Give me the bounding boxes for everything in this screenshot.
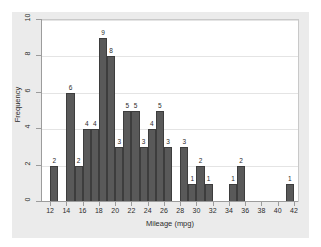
gridline — [42, 56, 298, 57]
bar-value-label: 3 — [112, 138, 126, 145]
x-axis-tick — [115, 202, 116, 206]
bar-value-label: 5 — [128, 102, 142, 109]
x-axis-tick — [148, 202, 149, 206]
x-axis-tick-label: 34 — [221, 207, 237, 214]
x-axis-label: Mileage (mpg) — [42, 219, 298, 228]
bar-value-label: 4 — [88, 120, 102, 127]
histogram-bar — [115, 147, 123, 202]
bar-value-label: 8 — [104, 47, 118, 54]
bar-value-label: 3 — [177, 138, 191, 145]
x-axis-tick-label: 40 — [270, 207, 286, 214]
y-axis-line — [41, 19, 42, 201]
gridline — [42, 20, 298, 21]
x-axis-tick — [50, 202, 51, 206]
x-axis-tick-label: 42 — [286, 207, 302, 214]
histogram-bar — [196, 166, 204, 202]
histogram-bar — [131, 111, 139, 202]
histogram-bar — [107, 56, 115, 202]
x-axis-tick-label: 38 — [253, 207, 269, 214]
histogram-bar — [123, 111, 131, 202]
x-axis-tick — [66, 202, 67, 206]
gridline — [42, 93, 298, 94]
y-axis-tick — [36, 165, 41, 166]
y-axis-tick-label: 0 — [24, 193, 31, 207]
x-axis-tick — [294, 202, 295, 206]
x-axis-tick — [229, 202, 230, 206]
x-axis-tick-label: 12 — [42, 207, 58, 214]
plot-area: 262449835534533121121 — [42, 19, 299, 202]
histogram-bar — [66, 93, 74, 202]
bar-value-label: 2 — [234, 157, 248, 164]
y-axis-tick-label: 6 — [24, 83, 31, 97]
bar-value-label: 1 — [185, 175, 199, 182]
y-axis-label: Frequency — [13, 75, 22, 135]
y-axis-tick — [36, 201, 41, 202]
histogram-bar — [140, 147, 148, 202]
bar-value-label: 5 — [153, 102, 167, 109]
bar-value-label: 1 — [283, 175, 297, 182]
y-axis-tick — [36, 128, 41, 129]
histogram-bar — [229, 184, 237, 202]
histogram-bar — [286, 184, 294, 202]
x-axis-tick — [99, 202, 100, 206]
bar-value-label: 1 — [226, 175, 240, 182]
x-axis-tick-label: 16 — [75, 207, 91, 214]
x-axis-tick-label: 36 — [237, 207, 253, 214]
x-axis-tick-label: 30 — [188, 207, 204, 214]
histogram-bar — [83, 129, 91, 202]
x-axis-tick — [164, 202, 165, 206]
histogram-bar — [75, 166, 83, 202]
x-axis-tick-label: 24 — [140, 207, 156, 214]
x-axis-tick — [196, 202, 197, 206]
x-axis-tick — [83, 202, 84, 206]
x-axis-tick — [245, 202, 246, 206]
histogram-figure: 262449835534533121121 0246810 1214161820… — [0, 0, 321, 247]
histogram-bar — [205, 184, 213, 202]
x-axis-tick-label: 20 — [107, 207, 123, 214]
y-axis-tick-label: 2 — [24, 156, 31, 170]
bar-value-label: 6 — [63, 84, 77, 91]
histogram-bar — [164, 147, 172, 202]
bar-value-label: 9 — [96, 29, 110, 36]
x-axis-tick-label: 26 — [156, 207, 172, 214]
x-axis-tick-label: 22 — [123, 207, 139, 214]
histogram-bar — [91, 129, 99, 202]
histogram-bar — [188, 184, 196, 202]
bar-value-label: 4 — [145, 120, 159, 127]
x-axis-tick — [213, 202, 214, 206]
y-axis-tick-label: 4 — [24, 120, 31, 134]
y-axis-tick — [36, 92, 41, 93]
y-axis-tick — [36, 19, 41, 20]
x-axis-line — [41, 201, 298, 202]
bar-value-label: 2 — [47, 157, 61, 164]
x-axis-tick-label: 18 — [91, 207, 107, 214]
bar-value-label: 1 — [202, 175, 216, 182]
x-axis-tick — [180, 202, 181, 206]
x-axis-tick — [131, 202, 132, 206]
gridline — [42, 129, 298, 130]
bar-value-label: 3 — [137, 138, 151, 145]
y-axis-tick-label: 8 — [24, 47, 31, 61]
x-axis-tick-label: 14 — [58, 207, 74, 214]
bar-value-label: 2 — [72, 157, 86, 164]
y-axis-tick — [36, 55, 41, 56]
y-axis-tick-label: 10 — [24, 11, 31, 25]
histogram-bar — [237, 166, 245, 202]
x-axis-tick-label: 28 — [172, 207, 188, 214]
bar-value-label: 3 — [161, 138, 175, 145]
x-axis-tick — [278, 202, 279, 206]
x-axis-tick — [261, 202, 262, 206]
histogram-bar — [50, 166, 58, 202]
bar-value-label: 2 — [193, 157, 207, 164]
x-axis-tick-label: 32 — [205, 207, 221, 214]
